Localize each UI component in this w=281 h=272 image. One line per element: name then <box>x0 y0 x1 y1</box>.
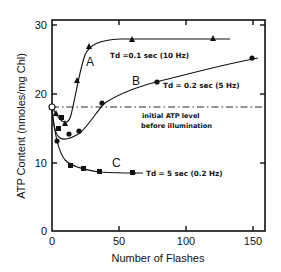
square-marker <box>59 115 64 120</box>
x-tick-50: 50 <box>113 235 125 247</box>
triangle-marker <box>210 35 216 41</box>
series-c-markers <box>56 115 135 175</box>
y-ticks <box>52 25 265 163</box>
x-tick-100: 100 <box>177 235 195 247</box>
square-marker <box>56 126 61 131</box>
square-marker <box>81 166 86 171</box>
x-axis-label: Number of Flashes <box>112 252 205 264</box>
y-tick-10: 10 <box>35 157 47 169</box>
circle-marker <box>154 79 159 84</box>
atp-chart: 0 50 100 150 0 10 20 30 Number of Flashe… <box>0 0 281 272</box>
series-a-note: Td =0.1 sec (10 Hz) <box>110 51 189 60</box>
y-tick-30: 30 <box>35 19 47 31</box>
circle-marker <box>99 100 104 105</box>
series-b-markers <box>54 55 254 143</box>
square-marker <box>68 163 73 168</box>
circle-marker <box>76 128 81 133</box>
reference-label-line2: before illumination <box>141 122 212 130</box>
x-tick-150: 150 <box>244 235 262 247</box>
triangle-marker <box>62 120 68 126</box>
reference-label-line1: initial ATP level <box>142 112 200 120</box>
circle-marker <box>249 55 254 60</box>
y-axis-label: ATP Content (nmoles/mg Chl) <box>15 53 27 199</box>
series-b-note: Td = 0.2 sec (5 Hz) <box>163 81 240 90</box>
triangle-marker <box>86 43 92 49</box>
circle-marker <box>66 131 71 136</box>
curve-a-label: A <box>86 55 94 69</box>
y-tick-0: 0 <box>41 225 47 237</box>
series-c-note: Td = 5 sec (0.2 Hz) <box>146 169 223 178</box>
y-tick-20: 20 <box>35 88 47 100</box>
curve-c-label: C <box>112 156 121 170</box>
x-tick-0: 0 <box>49 235 55 247</box>
initial-point-open-circle <box>49 104 55 110</box>
square-marker <box>130 170 135 175</box>
circle-marker <box>54 138 59 143</box>
square-marker <box>97 169 102 174</box>
curve-b-label: B <box>132 74 140 88</box>
